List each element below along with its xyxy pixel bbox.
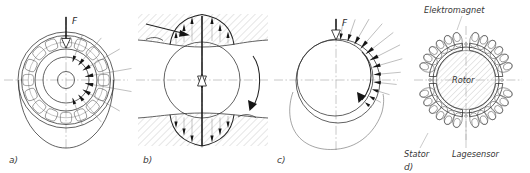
label-stator: Stator <box>404 149 430 159</box>
label-lagesensor: Lagesensor <box>452 149 500 159</box>
panel-label-d: d) <box>404 162 413 172</box>
panel-label-c: c) <box>277 155 285 165</box>
label-rotor: Rotor <box>452 75 475 85</box>
bearing-figure: F <box>0 0 530 173</box>
panel-label-b: b) <box>143 155 152 165</box>
force-label-c: F <box>342 18 348 28</box>
label-elektromagnet: Elektromagnet <box>424 5 485 15</box>
force-label-a: F <box>72 16 78 26</box>
lower-surface-hatch-b <box>138 113 268 146</box>
panel-label-a: a) <box>9 155 18 165</box>
